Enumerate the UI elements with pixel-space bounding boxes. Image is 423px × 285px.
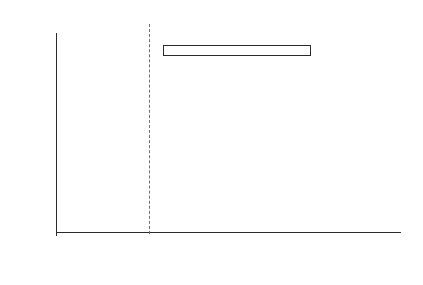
plot-area	[57, 36, 400, 233]
chart-legend	[163, 45, 311, 56]
stacked-area-svg	[57, 36, 400, 233]
x-axis-title	[0, 258, 423, 270]
historical-projected-divider	[149, 24, 150, 234]
y-axis-tick-labels	[0, 0, 53, 285]
chart-container	[0, 0, 423, 285]
